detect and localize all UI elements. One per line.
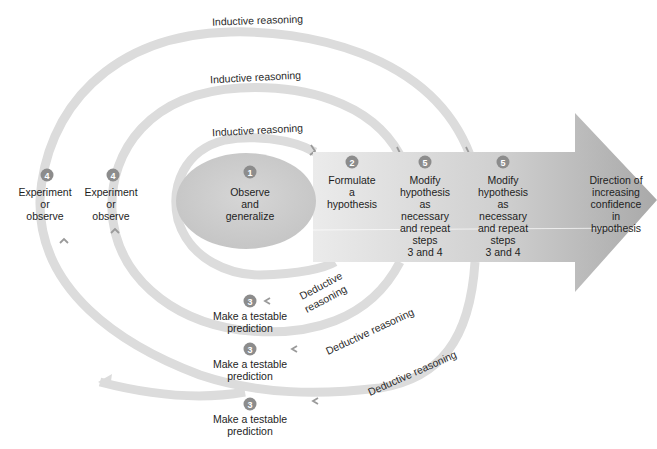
deductive-label-middle: Deductive reasoning <box>324 305 416 356</box>
svg-text:2: 2 <box>349 158 354 168</box>
svg-text:1: 1 <box>247 168 252 178</box>
svg-text:3: 3 <box>247 345 252 355</box>
svg-text:necessary: necessary <box>479 210 528 222</box>
svg-text:a: a <box>349 186 355 198</box>
svg-text:prediction: prediction <box>227 370 273 382</box>
svg-text:Make a testable: Make a testable <box>213 310 287 322</box>
svg-text:necessary: necessary <box>401 210 450 222</box>
svg-text:4: 4 <box>44 171 49 181</box>
svg-text:generalize: generalize <box>226 210 275 222</box>
svg-text:steps: steps <box>412 234 437 246</box>
svg-text:3 and 4: 3 and 4 <box>485 246 520 258</box>
svg-text:or: or <box>40 198 50 210</box>
svg-text:in: in <box>612 210 620 222</box>
svg-text:4: 4 <box>110 171 115 181</box>
svg-text:Make a testable: Make a testable <box>213 358 287 370</box>
inductive-label-inner: Inductive reasoning <box>212 121 304 138</box>
svg-text:Make a testable: Make a testable <box>213 413 287 425</box>
svg-text:and repeat: and repeat <box>478 222 528 234</box>
svg-text:3 and 4: 3 and 4 <box>407 246 442 258</box>
svg-text:prediction: prediction <box>227 425 273 437</box>
svg-text:hypothesis: hypothesis <box>591 222 641 234</box>
svg-text:Formulate: Formulate <box>328 174 375 186</box>
scientific-method-diagram: Inductive reasoning Inductive reasoning … <box>0 0 657 449</box>
svg-text:5: 5 <box>422 158 427 168</box>
svg-text:hypothesis: hypothesis <box>478 186 528 198</box>
svg-text:Direction of: Direction of <box>589 174 642 186</box>
inductive-label-outer: Inductive reasoning <box>212 12 304 27</box>
svg-text:Observe: Observe <box>230 186 270 198</box>
svg-text:confidence: confidence <box>591 198 642 210</box>
svg-text:and repeat: and repeat <box>400 222 450 234</box>
step-predict-middle: 3 Make a testable prediction <box>213 343 287 383</box>
step-experiment-outer: 4 Experiment or observe <box>18 169 71 223</box>
svg-text:Experiment: Experiment <box>18 186 71 198</box>
svg-text:5: 5 <box>500 158 505 168</box>
svg-text:steps: steps <box>490 234 515 246</box>
svg-text:increasing: increasing <box>592 186 640 198</box>
svg-text:and: and <box>241 198 259 210</box>
svg-text:3: 3 <box>247 400 252 410</box>
svg-text:3: 3 <box>247 297 252 307</box>
svg-text:observe: observe <box>92 210 130 222</box>
svg-text:Experiment: Experiment <box>84 186 137 198</box>
inductive-label-middle: Inductive reasoning <box>210 69 302 86</box>
svg-text:as: as <box>497 198 508 210</box>
svg-text:observe: observe <box>26 210 64 222</box>
svg-text:hypothesis: hypothesis <box>327 198 377 210</box>
deductive-label-outer: Deductive reasoning <box>366 348 458 398</box>
svg-text:Modify: Modify <box>410 174 442 186</box>
svg-text:or: or <box>106 198 116 210</box>
step-experiment-middle: 4 Experiment or observe <box>84 169 137 223</box>
direction-label: Direction of increasing confidence in hy… <box>589 174 642 234</box>
svg-text:prediction: prediction <box>227 322 273 334</box>
svg-text:Modify: Modify <box>488 174 520 186</box>
svg-text:hypothesis: hypothesis <box>400 186 450 198</box>
svg-text:as: as <box>419 198 430 210</box>
step-predict-outer: 3 Make a testable prediction <box>213 398 287 438</box>
